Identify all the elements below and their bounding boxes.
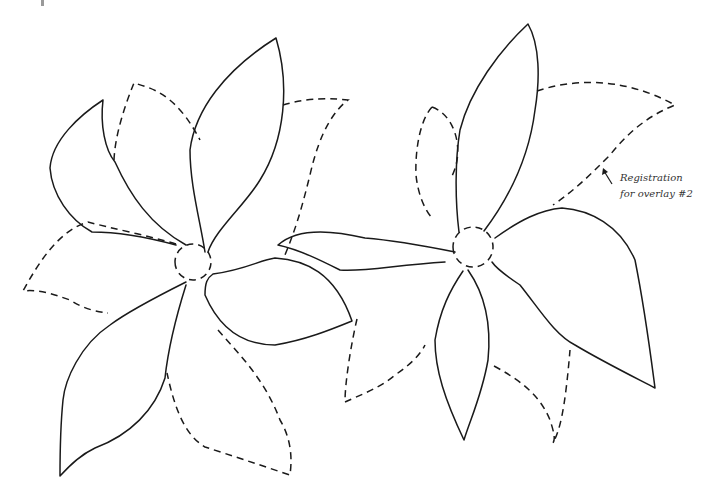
registration-arrow-icon [602,168,612,184]
left-flower-petal-1 [50,100,186,245]
right-flower-petal-1 [456,24,538,232]
left-flower-overlay-petal-5 [175,244,211,280]
registration-note-line2: for overlay #2 [620,186,693,202]
flower-pattern-canvas [0,0,706,491]
right-flower [278,24,675,443]
right-flower-petal-3 [435,270,489,440]
registration-note-line1: Registration [620,170,693,186]
right-flower-overlay-petal-1 [432,107,458,176]
registration-note: Registration for overlay #2 [620,170,693,202]
left-flower-petal-4 [60,282,186,476]
right-flower-petal-2 [492,208,655,388]
right-flower-overlay-petal-5 [494,350,570,443]
right-flower-overlay-petal-2 [416,107,432,218]
right-flower-overlay-petal-4 [345,319,425,402]
right-flower-overlay-petals [345,82,675,443]
left-flower-overlay-petal-4 [167,330,291,475]
left-flower [23,38,352,476]
left-flower-overlay-petal-2 [114,83,200,160]
right-flower-overlay-petal-6 [453,227,493,267]
left-flower-petal-3 [205,258,352,345]
left-flower-petal-2 [190,38,284,252]
right-flower-solid-petals [278,24,655,440]
left-flower-overlay-petals [23,83,348,475]
left-flower-solid-petals [50,38,352,476]
